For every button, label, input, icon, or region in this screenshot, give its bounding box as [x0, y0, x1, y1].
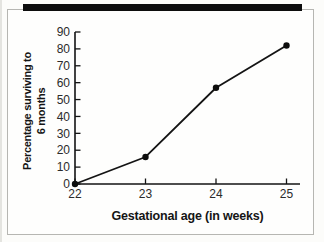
x-tick-label: 22: [68, 187, 82, 201]
data-point-week-25: [283, 42, 289, 48]
x-tick-label: 23: [139, 187, 153, 201]
survival-line-chart: 010203040506070809022232425Gestational a…: [0, 0, 324, 242]
y-tick-label: 50: [57, 93, 71, 107]
x-axis-title: Gestational age (in weeks): [112, 209, 264, 223]
y-axis-title-line1: Percentage surviving to: [21, 52, 33, 170]
y-tick-label: 80: [57, 42, 71, 56]
axis-lines: [75, 32, 300, 184]
y-tick-label: 70: [57, 59, 71, 73]
y-tick-label: 40: [57, 110, 71, 124]
y-tick-label: 60: [57, 76, 71, 90]
y-tick-label: 30: [57, 127, 71, 141]
data-point-week-22: [72, 181, 78, 187]
scanned-book-page: 010203040506070809022232425Gestational a…: [0, 0, 324, 242]
x-tick-label: 24: [209, 187, 223, 201]
data-point-week-23: [142, 154, 148, 160]
y-tick-label: 10: [57, 160, 71, 174]
y-axis-title-line2: 6 months: [35, 88, 47, 135]
y-tick-label: 90: [57, 25, 71, 39]
y-tick-label: 20: [57, 143, 71, 157]
survival-line: [75, 46, 287, 184]
x-tick-label: 25: [280, 187, 294, 201]
data-point-week-24: [213, 85, 219, 91]
